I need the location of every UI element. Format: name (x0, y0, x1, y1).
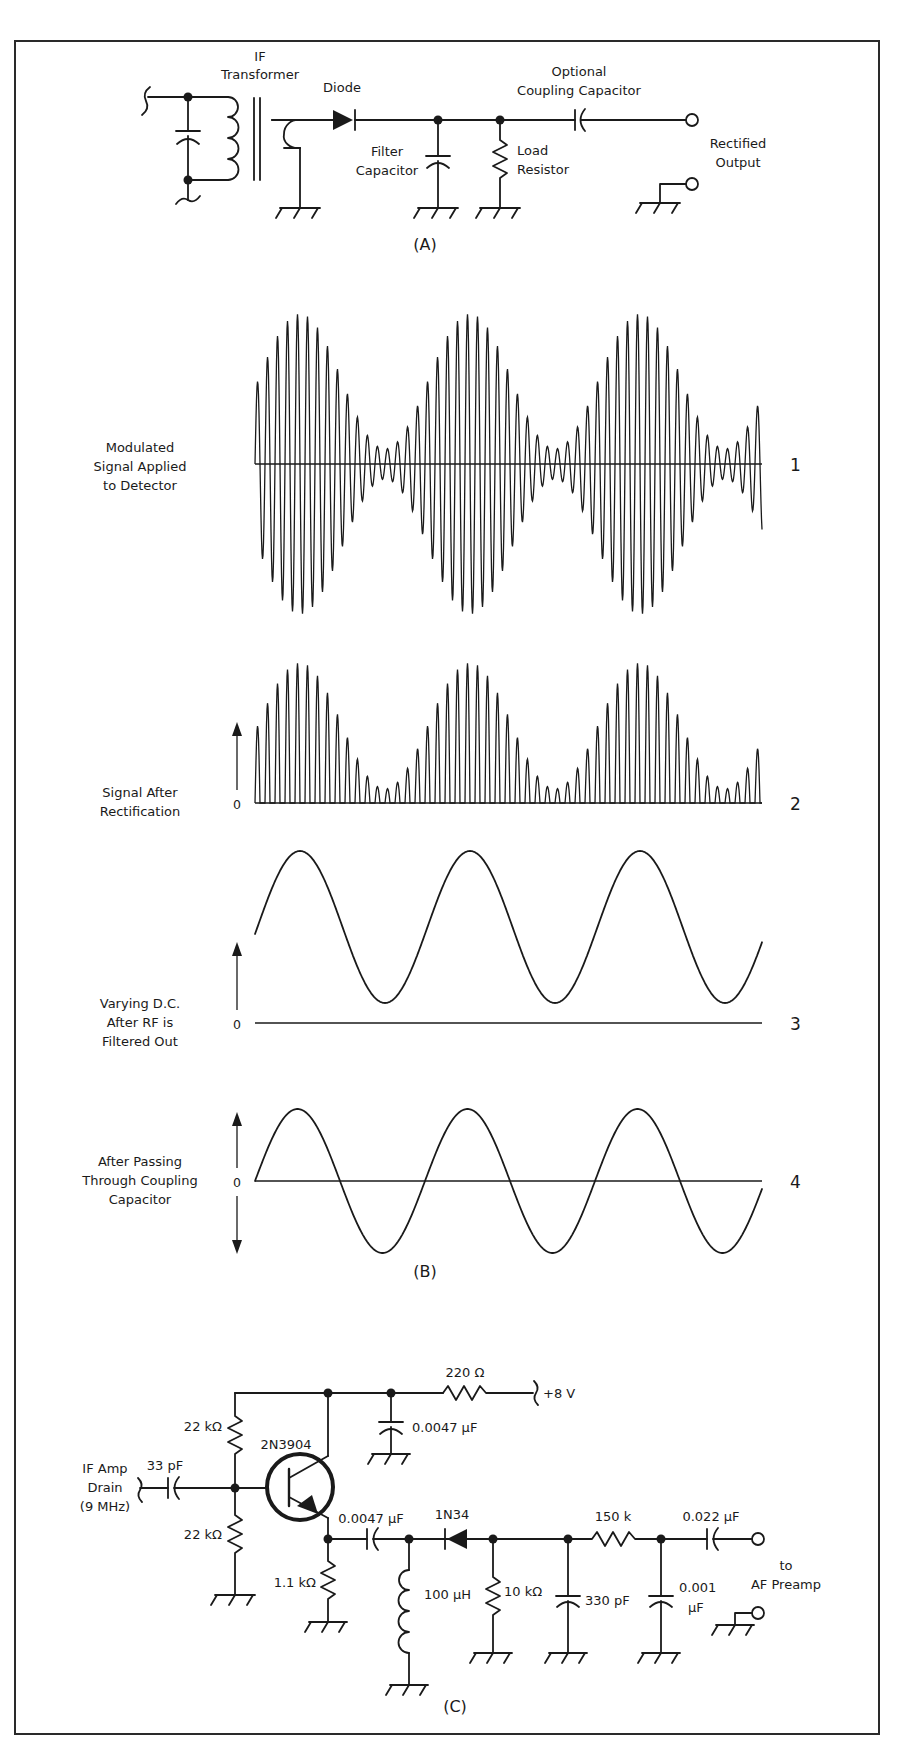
npn-transistor-icon (267, 1393, 333, 1520)
coupling-capacitor-label: Coupling Capacitor (517, 83, 641, 98)
c-filter2-label: 0.001 (679, 1580, 716, 1595)
arrow-up-icon (232, 722, 242, 736)
filter-capacitor-label: Capacitor (356, 163, 419, 178)
trace-1-label: Signal Applied (94, 459, 187, 474)
ground-icon (386, 1685, 428, 1695)
ground-terminal-icon (752, 1607, 764, 1619)
load-resistor-icon (493, 120, 507, 208)
coupling-capacitor-label: Optional (552, 64, 607, 79)
r-supply-label: 220 Ω (446, 1365, 485, 1380)
trace-3-varying-dc (255, 851, 762, 1003)
rectified-output-label: Output (715, 155, 760, 170)
input-label: (9 MHz) (80, 1499, 130, 1514)
trace-1-label: Modulated (106, 440, 175, 455)
trace-4-label: After Passing (98, 1154, 182, 1169)
ground-terminal-icon (686, 178, 698, 190)
load-resistor-label: Load (517, 143, 548, 158)
input-terminal-icon (142, 87, 150, 115)
c-filter2-label: µF (688, 1600, 704, 1615)
ground-icon (470, 1653, 512, 1663)
input-label: Drain (87, 1480, 122, 1495)
c-in-label: 33 pF (147, 1458, 183, 1473)
ground-icon (545, 1653, 587, 1663)
arrow-up-icon (232, 1112, 242, 1126)
trace-3-number: 3 (790, 1014, 801, 1034)
supply-terminal-icon (534, 1381, 538, 1405)
diode-label: Diode (323, 80, 361, 95)
ground-icon (414, 208, 458, 218)
diode-1n34-icon (447, 1529, 467, 1549)
transistor-label: 2N3904 (260, 1437, 311, 1452)
trace-2-zero: 0 (233, 797, 241, 812)
if-transformer-secondary-icon (284, 120, 300, 148)
output-terminal-icon (752, 1533, 764, 1545)
rectified-output-label: Rectified (710, 136, 767, 151)
diode-label: 1N34 (435, 1507, 470, 1522)
c-couple-label: 0.0047 µF (338, 1511, 403, 1526)
output-terminal-icon (686, 114, 698, 126)
ground-icon (368, 1454, 410, 1464)
r-load-label: 10 kΩ (504, 1584, 542, 1599)
trace-4-zero: 0 (233, 1175, 241, 1190)
trace-4-label: Capacitor (109, 1192, 172, 1207)
trace-2-rectified-signal (255, 663, 762, 803)
trace-1-number: 1 (790, 455, 801, 475)
trace-2-label: Rectification (100, 804, 181, 819)
output-label: to (779, 1558, 792, 1573)
ground-icon (305, 1622, 347, 1632)
if-transformer-label: IF (254, 49, 265, 64)
trace-3-zero: 0 (233, 1017, 241, 1032)
r-bias-top-label: 22 kΩ (184, 1419, 222, 1434)
trace-3-label: Filtered Out (102, 1034, 178, 1049)
trace-3-label: After RF is (107, 1015, 174, 1030)
supply-label: +8 V (543, 1386, 575, 1401)
c-filter1-label: 330 pF (585, 1593, 630, 1608)
panel-b-waveforms: Modulated Signal Applied to Detector 1 0… (81, 314, 800, 1281)
resistor-bias-top-icon (228, 1393, 242, 1488)
r-series-label: 150 k (595, 1509, 632, 1524)
panel-c-label: (C) (443, 1697, 467, 1716)
panel-a-label: (A) (413, 235, 436, 254)
resistor-emitter-icon (321, 1539, 335, 1622)
resistor-150k-icon (568, 1532, 661, 1546)
inductor-icon (399, 1570, 410, 1653)
load-resistor-label: Resistor (517, 162, 570, 177)
filter-capacitor-label: Filter (371, 144, 404, 159)
diode-icon (333, 110, 353, 130)
trace-4-number: 4 (790, 1172, 801, 1192)
input-label: IF Amp (82, 1461, 127, 1476)
ground-icon (638, 1653, 680, 1663)
resistor-bias-bottom-icon (228, 1488, 242, 1595)
inductor-label: 100 µH (424, 1587, 471, 1602)
trace-2-number: 2 (790, 794, 801, 814)
trace-2-label: Signal After (102, 785, 178, 800)
arrow-down-icon (232, 1240, 242, 1254)
trace-4-label: Through Coupling (81, 1173, 197, 1188)
panel-c-circuit: 220 Ω +8 V 0.0047 µF 22 kΩ 22 kΩ (80, 1365, 821, 1716)
figure-canvas: IF Transformer Diode Filter Capacitor Lo… (0, 0, 913, 1760)
c-out-label: 0.022 µF (682, 1509, 739, 1524)
r-emitter-label: 1.1 kΩ (274, 1575, 316, 1590)
ground-icon (476, 208, 520, 218)
ground-icon (276, 208, 320, 218)
r-bias-bottom-label: 22 kΩ (184, 1527, 222, 1542)
if-transformer-label: Transformer (220, 67, 300, 82)
ground-icon (636, 203, 680, 213)
output-label: AF Preamp (751, 1577, 821, 1592)
arrow-up-icon (232, 942, 242, 956)
panel-b-label: (B) (413, 1262, 436, 1281)
resistor-220-icon (443, 1386, 533, 1400)
ground-icon (211, 1595, 255, 1605)
resistor-10k-icon (486, 1539, 500, 1653)
trace-3-label: Varying D.C. (100, 996, 180, 1011)
input-terminal-icon (138, 1478, 142, 1502)
c-bypass-label: 0.0047 µF (412, 1420, 477, 1435)
panel-a-circuit: IF Transformer Diode Filter Capacitor Lo… (142, 49, 766, 254)
if-transformer-primary-icon (228, 97, 239, 180)
ground-icon (712, 1625, 754, 1635)
trace-1-label: to Detector (103, 478, 177, 493)
